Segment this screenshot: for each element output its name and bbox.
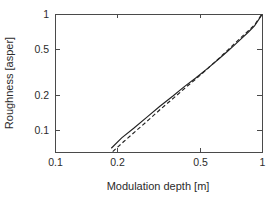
x-tick-label: 0.2 [110, 156, 125, 168]
x-axis-title: Modulation depth [m] [107, 180, 210, 192]
y-tick-label: 1 [43, 8, 49, 20]
y-tick-label: 0.5 [34, 43, 49, 55]
x-tick-label: 0.1 [48, 156, 63, 168]
y-tick-label: 0.1 [34, 124, 49, 136]
x-tick-label: 1 [260, 156, 266, 168]
x-tick-label: 0.5 [193, 156, 208, 168]
plot-background [55, 14, 262, 152]
y-tick-label: 0.2 [34, 89, 49, 101]
plot-area [55, 14, 263, 152]
chart-figure: 0.10.20.51 0.10.20.51 Modulation depth [… [0, 0, 276, 197]
y-axis-title: Roughness [asper] [3, 37, 15, 129]
